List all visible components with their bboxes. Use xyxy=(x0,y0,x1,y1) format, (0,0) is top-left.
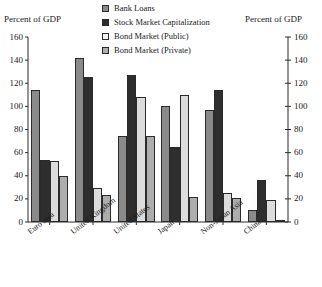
bar-series-layer xyxy=(0,0,322,287)
bar xyxy=(257,180,266,222)
bar xyxy=(31,90,40,222)
bar xyxy=(59,176,68,222)
bar xyxy=(75,58,84,222)
bar xyxy=(189,197,198,222)
bar xyxy=(118,136,127,222)
bar xyxy=(266,200,275,222)
bar-chart: Percent of GDP Percent of GDP Bank Loans… xyxy=(0,0,322,287)
bar xyxy=(205,110,214,222)
bar xyxy=(84,77,93,222)
bar xyxy=(214,90,223,222)
bar xyxy=(127,75,136,222)
bar xyxy=(161,106,170,222)
bar xyxy=(170,147,179,222)
bar xyxy=(276,220,285,222)
bar xyxy=(180,95,189,222)
